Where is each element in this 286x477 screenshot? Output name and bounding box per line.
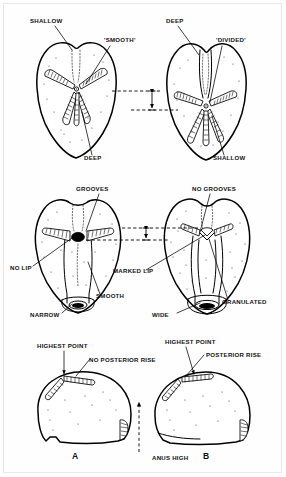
specimen-aboral-left [37,43,116,158]
label-wide: WIDE [152,311,169,318]
label-highest-point-b: HIGHEST POINT [165,338,216,345]
label-marked-lip: MARKED LIP [113,267,153,274]
figure-root: SHALLOW 'SMOOTH' DEEP DEEP 'DIVIDED' SHA… [0,0,286,477]
label-anus-high: ANUS HIGH [152,454,188,461]
specimen-oral-right [164,199,249,314]
label-smooth-oral: SMOOTH [96,292,124,299]
label-shallow-top: SHALLOW [30,17,63,24]
label-no-grooves: NO GROOVES [192,185,236,192]
specimen-aboral-right [167,44,246,160]
echinoid-plate: SHALLOW 'SMOOTH' DEEP DEEP 'DIVIDED' SHA… [0,0,286,477]
label-smooth: 'SMOOTH' [104,36,136,43]
label-no-posterior-rise: NO POSTERIOR RISE [89,356,156,363]
label-granulated: GRANULATED [222,298,267,305]
test-outline-oral-right [164,199,249,314]
panel-letter-b: B [203,451,209,461]
label-deep-bottom: DEEP [84,154,102,161]
label-shallow-bottom: SHALLOW [213,154,246,161]
test-profile-b [155,372,250,444]
label-divided: 'DIVIDED' [216,36,246,43]
label-no-lip: NO LIP [10,264,32,271]
panel-letter-a: A [72,451,78,461]
label-narrow: NARROW [30,311,60,318]
label-deep-top: DEEP [166,17,184,24]
label-grooves: GROOVES [76,185,109,192]
peristome-no-lip [72,232,85,241]
periproct-hatch-b [240,420,248,441]
specimen-lateral-b [155,372,250,444]
specimen-lateral-a [38,372,131,444]
label-posterior-rise: POSTERIOR RISE [206,351,261,358]
periproct-hatch-a [120,420,128,440]
label-highest-point-a: HIGHEST POINT [37,342,88,349]
leader-highest-point-b [186,347,194,374]
